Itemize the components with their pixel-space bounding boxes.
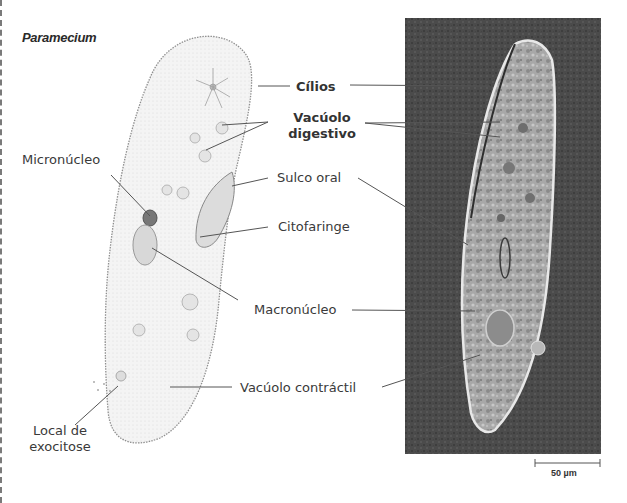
- label-contractile-vacuole: Vacúolo contráctil: [240, 380, 356, 396]
- label-exocytosis-line2: exocitose: [22, 439, 98, 455]
- label-macronucleus: Macronúcleo: [254, 302, 337, 318]
- micronucleus-shape: [143, 210, 157, 226]
- exocytosis-site: [116, 371, 126, 381]
- label-digestive-vacuole-line2: digestivo: [282, 126, 362, 142]
- label-cytopharynx: Citofaringe: [278, 219, 350, 235]
- label-cilia: Cílios: [296, 79, 336, 95]
- scale-bar-label: 50 µm: [551, 468, 577, 478]
- label-oral-groove: Sulco oral: [277, 170, 341, 186]
- cell-outline: [105, 36, 251, 443]
- label-exocytosis-line1: Local de: [22, 423, 98, 439]
- scale-bar: [535, 459, 600, 467]
- label-exocytosis-site: Local de exocitose: [22, 423, 98, 455]
- label-micronucleus: Micronúcleo: [22, 152, 100, 168]
- macronucleus-shape: [133, 225, 157, 265]
- label-digestive-vacuole-line1: Vacúolo: [282, 110, 362, 126]
- label-digestive-vacuole: Vacúolo digestivo: [282, 110, 362, 142]
